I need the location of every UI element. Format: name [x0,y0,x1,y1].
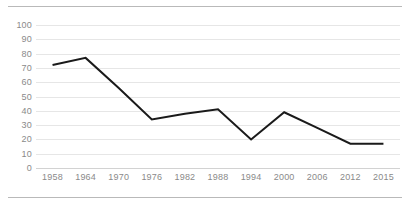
x-tick-label-1982: 1982 [174,172,195,182]
y-tick-label-0: 0 [0,163,32,173]
x-tick-label-1970: 1970 [108,172,129,182]
x-tick-label-2000: 2000 [274,172,295,182]
x-tick-label-1976: 1976 [141,172,162,182]
y-tick-label-70: 70 [0,63,32,73]
x-tick-label-1988: 1988 [208,172,229,182]
y-axis-tick-labels: 1009080706050403020100 [0,25,32,168]
y-tick-label-10: 10 [0,149,32,159]
top-divider-rule [8,6,402,7]
y-tick-label-30: 30 [0,120,32,130]
y-tick-label-100: 100 [0,20,32,30]
y-tick-label-40: 40 [0,106,32,116]
x-tick-label-1964: 1964 [75,172,96,182]
y-tick-label-90: 90 [0,34,32,44]
x-tick-label-2012: 2012 [340,172,361,182]
y-tick-label-20: 20 [0,134,32,144]
plot-area [36,25,400,168]
y-tick-label-60: 60 [0,77,32,87]
x-tick-label-2015: 2015 [373,172,394,182]
data-series-group [36,25,400,168]
line-chart-figure: 1009080706050403020100 19581964197019761… [0,0,410,207]
x-tick-label-1958: 1958 [42,172,63,182]
y-tick-label-80: 80 [0,49,32,59]
x-tick-label-2006: 2006 [307,172,328,182]
y-tick-label-50: 50 [0,92,32,102]
gridline-0 [36,168,400,169]
series-line [53,58,384,144]
bottom-divider-rule [8,197,402,198]
x-tick-label-1994: 1994 [241,172,262,182]
x-axis-tick-labels: 1958196419701976198219881994200020062012… [36,172,400,188]
